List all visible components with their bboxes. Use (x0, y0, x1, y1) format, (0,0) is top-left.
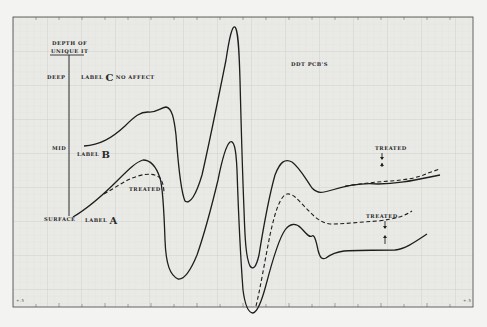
treated-label-b: TREATED (375, 146, 407, 151)
label-a: LABEL A (85, 216, 117, 226)
treated-label-a-right: TREATED (366, 214, 398, 219)
label-b-prefix: LABEL (77, 151, 99, 157)
corner-label-bottom-right: +.5 (463, 299, 472, 303)
depth-level-deep: DEEP (47, 75, 65, 80)
depth-axis-title-line1: DEPTH OF (52, 41, 87, 46)
label-b: LABEL B (77, 150, 110, 160)
label-a-prefix: LABEL (85, 217, 107, 223)
label-c-prefix: LABEL (81, 74, 103, 80)
corner-label-bottom-left: +.5 (16, 299, 25, 303)
depth-level-mid: MID (52, 146, 66, 151)
depth-level-surface: SURFACE (44, 217, 76, 222)
chart-sheet: DEPTH OF UNIQUE IT DEEP MID SURFACE LABE… (0, 0, 487, 327)
label-c: LABEL C NO AFFECT (81, 73, 155, 83)
depth-axis-title-line2: UNIQUE IT (51, 49, 88, 54)
label-c-letter: C (105, 72, 113, 83)
label-c-suffix: NO AFFECT (116, 74, 155, 80)
chart-title: DDT PCB'S (291, 62, 328, 67)
label-a-letter: A (109, 215, 117, 226)
label-b-letter: B (101, 149, 109, 160)
treated-label-a-left: TREATED (129, 187, 161, 192)
